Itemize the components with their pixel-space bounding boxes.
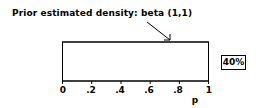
tick-label: .6 <box>144 85 154 95</box>
tick-label: .2 <box>86 85 96 95</box>
tick-label: .4 <box>115 85 125 95</box>
percent-box: 40% <box>221 55 246 70</box>
density-plot: 0 .2 .4 .6 .8 1 p <box>0 0 256 108</box>
tick-label: 0 <box>60 85 66 95</box>
x-axis-label: p <box>192 95 199 105</box>
annotation-arrow <box>147 22 170 40</box>
tick-label: .8 <box>173 85 183 95</box>
tick-label: 1 <box>206 85 212 95</box>
x-tick-labels: 0 .2 .4 .6 .8 1 <box>60 85 212 95</box>
